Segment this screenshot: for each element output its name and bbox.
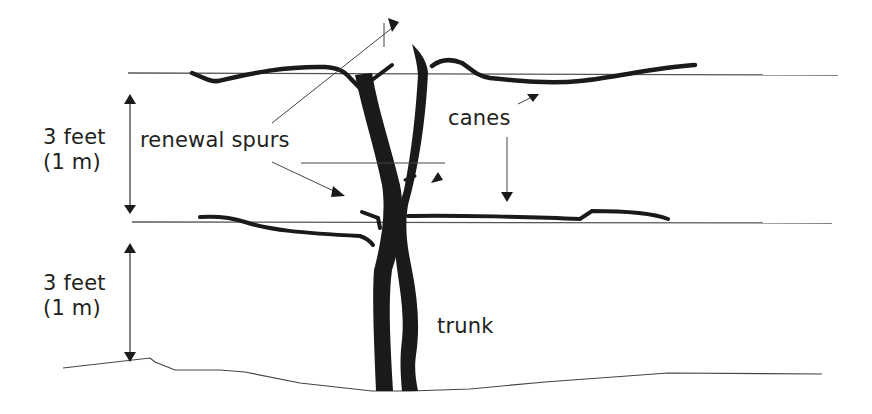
upper-right-cane [432,60,695,82]
lower-height-feet: 3 feet [43,271,106,296]
lower-left-cane [200,217,373,245]
trunk-label: trunk [437,314,494,339]
upper-height-label: 3 feet (1 m) [43,125,106,175]
vine-diagram [0,0,872,414]
upper-dimension-arrow [124,94,136,214]
upper-left-cane [192,67,366,95]
lower-right-cane [408,211,668,219]
lower-spur-left [362,212,380,228]
bottom-wire [132,222,832,223]
lower-height-label: 3 feet (1 m) [43,271,106,321]
lower-dimension-arrow [124,243,136,362]
upper-spur-left [372,65,392,80]
renewal-spurs-label: renewal spurs [140,128,290,153]
upper-height-feet: 3 feet [43,125,106,150]
trunk-left-stem [355,73,402,391]
ground-line [63,358,822,391]
lower-height-meters: (1 m) [43,296,106,321]
upper-height-meters: (1 m) [43,150,106,175]
canes-label: canes [448,106,511,131]
